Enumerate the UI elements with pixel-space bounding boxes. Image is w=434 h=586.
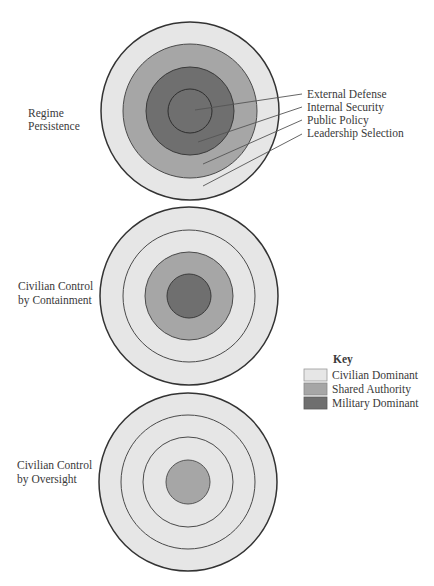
legend: Key Civilian Dominant Shared Authority M… xyxy=(304,353,419,410)
legend-swatch-civilian-dominant xyxy=(304,369,327,381)
ring-external-defense-military xyxy=(168,89,212,133)
diagram-civilian-control-oversight: Civilian Control by Oversight xyxy=(17,393,277,571)
callout-leadership-selection: Leadership Selection xyxy=(307,127,404,140)
callout-external-defense: External Defense xyxy=(307,88,387,100)
callout-public-policy: Public Policy xyxy=(307,114,369,127)
diagram-title-line1: Civilian Control xyxy=(18,280,93,292)
legend-label-military-dominant: Military Dominant xyxy=(332,397,419,410)
callout-internal-security: Internal Security xyxy=(307,101,384,114)
diagram-regime-persistence: External Defense Internal Security Publi… xyxy=(28,22,404,200)
legend-swatch-military-dominant xyxy=(304,397,327,409)
legend-label-shared-authority: Shared Authority xyxy=(332,383,411,396)
diagram-title-line2: by Oversight xyxy=(17,473,78,486)
ring-external-defense-shared xyxy=(166,460,210,504)
diagram-title-line2: by Containment xyxy=(18,294,93,307)
civil-military-relations-diagram: External Defense Internal Security Publi… xyxy=(0,0,434,586)
legend-swatch-shared-authority xyxy=(304,383,327,395)
diagram-title-line1: Civilian Control xyxy=(17,459,92,471)
legend-label-civilian-dominant: Civilian Dominant xyxy=(332,369,419,381)
diagram-civilian-control-containment: Civilian Control by Containment xyxy=(18,207,278,385)
legend-title: Key xyxy=(333,353,353,366)
ring-external-defense-military xyxy=(167,274,211,318)
diagram-title-line2: Persistence xyxy=(28,120,80,132)
diagram-title-line1: Regime xyxy=(28,107,64,120)
